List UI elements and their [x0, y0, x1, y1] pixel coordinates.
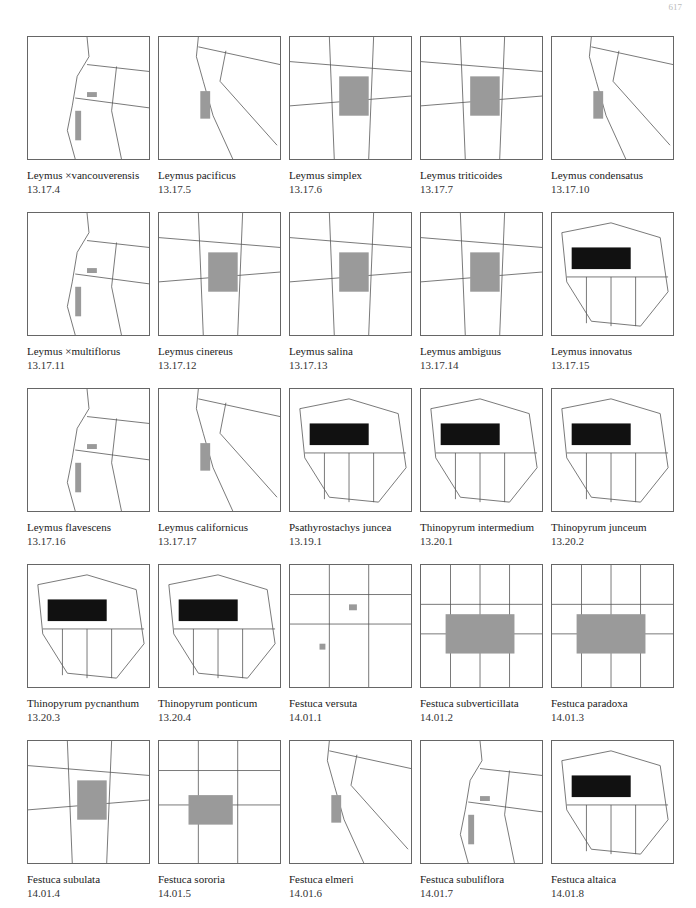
map-cell: Festuca subuliflora 14.01.7 — [420, 740, 544, 908]
species-name: Leymus salina — [289, 344, 413, 358]
map-caption: Leymus triticoides 13.17.7 — [420, 168, 544, 196]
species-name: Leymus innovatus — [551, 344, 675, 358]
species-code: 13.20.4 — [158, 710, 282, 724]
distribution-map — [289, 740, 412, 864]
map-graphic — [421, 741, 542, 863]
map-caption: Festuca subulata 14.01.4 — [27, 872, 151, 900]
distribution-map — [551, 564, 674, 688]
map-graphic — [421, 389, 542, 511]
map-graphic — [290, 37, 411, 159]
map-graphic — [421, 565, 542, 687]
map-graphic — [421, 37, 542, 159]
species-code: 14.01.7 — [420, 886, 544, 900]
species-name: Thinopyrum ponticum — [158, 696, 282, 710]
page-number: 617 — [669, 2, 683, 12]
map-graphic — [159, 37, 280, 159]
distribution-map — [551, 212, 674, 336]
species-name: Thinopyrum pycnanthum — [27, 696, 151, 710]
species-code: 13.17.4 — [27, 182, 151, 196]
species-name: Leymus ambiguus — [420, 344, 544, 358]
map-cell: Thinopyrum ponticum 13.20.4 — [158, 564, 282, 740]
species-code: 13.17.16 — [27, 534, 151, 548]
map-caption: Leymus simplex 13.17.6 — [289, 168, 413, 196]
species-name: Thinopyrum intermedium — [420, 520, 544, 534]
map-caption: Psathyrostachys juncea 13.19.1 — [289, 520, 413, 548]
species-code: 14.01.1 — [289, 710, 413, 724]
distribution-map — [420, 212, 543, 336]
species-name: Leymus californicus — [158, 520, 282, 534]
map-graphic — [28, 741, 149, 863]
species-name: Leymus triticoides — [420, 168, 544, 182]
map-graphic — [552, 213, 673, 335]
map-cell: Leymus ×multiflorus 13.17.11 — [27, 212, 151, 388]
map-caption: Leymus salina 13.17.13 — [289, 344, 413, 372]
map-caption: Leymus innovatus 13.17.15 — [551, 344, 675, 372]
species-name: Leymus condensatus — [551, 168, 675, 182]
distribution-map — [420, 36, 543, 160]
distribution-map — [27, 212, 150, 336]
map-cell: Leymus condensatus 13.17.10 — [551, 36, 675, 212]
map-graphic — [552, 565, 673, 687]
species-name: Leymus cinereus — [158, 344, 282, 358]
map-caption: Thinopyrum pycnanthum 13.20.3 — [27, 696, 151, 724]
map-caption: Leymus pacificus 13.17.5 — [158, 168, 282, 196]
distribution-map — [551, 36, 674, 160]
distribution-map — [27, 388, 150, 512]
species-code: 13.20.3 — [27, 710, 151, 724]
map-cell: Leymus innovatus 13.17.15 — [551, 212, 675, 388]
species-code: 13.17.12 — [158, 358, 282, 372]
species-code: 13.17.10 — [551, 182, 675, 196]
map-graphic — [159, 213, 280, 335]
map-cell: Thinopyrum pycnanthum 13.20.3 — [27, 564, 151, 740]
distribution-map — [289, 212, 412, 336]
map-cell: Festuca paradoxa 14.01.3 — [551, 564, 675, 740]
species-name: Leymus simplex — [289, 168, 413, 182]
map-graphic — [28, 37, 149, 159]
species-name: Festuca versuta — [289, 696, 413, 710]
distribution-map — [551, 740, 674, 864]
map-cell: Thinopyrum junceum 13.20.2 — [551, 388, 675, 564]
map-caption: Festuca elmeri 14.01.6 — [289, 872, 413, 900]
species-code: 14.01.4 — [27, 886, 151, 900]
species-name: Festuca altaica — [551, 872, 675, 886]
species-code: 13.17.5 — [158, 182, 282, 196]
distribution-map — [420, 740, 543, 864]
species-name: Leymus pacificus — [158, 168, 282, 182]
map-cell: Leymus salina 13.17.13 — [289, 212, 413, 388]
map-cell: Leymus ambiguus 13.17.14 — [420, 212, 544, 388]
map-caption: Festuca versuta 14.01.1 — [289, 696, 413, 724]
map-graphic — [552, 37, 673, 159]
distribution-map-grid: Leymus ×vancouverensis 13.17.4 Leymus pa… — [27, 36, 675, 908]
species-code: 13.17.13 — [289, 358, 413, 372]
species-code: 14.01.8 — [551, 886, 675, 900]
map-caption: Leymus ×vancouverensis 13.17.4 — [27, 168, 151, 196]
map-cell: Festuca subverticillata 14.01.2 — [420, 564, 544, 740]
distribution-map — [158, 388, 281, 512]
map-caption: Leymus cinereus 13.17.12 — [158, 344, 282, 372]
species-code: 13.17.15 — [551, 358, 675, 372]
species-code: 13.17.11 — [27, 358, 151, 372]
map-graphic — [552, 741, 673, 863]
map-caption: Thinopyrum junceum 13.20.2 — [551, 520, 675, 548]
map-caption: Festuca sororia 14.01.5 — [158, 872, 282, 900]
species-code: 14.01.3 — [551, 710, 675, 724]
species-code: 13.17.7 — [420, 182, 544, 196]
map-caption: Leymus ambiguus 13.17.14 — [420, 344, 544, 372]
species-code: 13.17.17 — [158, 534, 282, 548]
species-code: 14.01.2 — [420, 710, 544, 724]
species-name: Thinopyrum junceum — [551, 520, 675, 534]
map-graphic — [290, 213, 411, 335]
map-caption: Leymus flavescens 13.17.16 — [27, 520, 151, 548]
map-cell: Leymus ×vancouverensis 13.17.4 — [27, 36, 151, 212]
map-graphic — [290, 389, 411, 511]
map-graphic — [290, 741, 411, 863]
species-name: Festuca subulata — [27, 872, 151, 886]
map-graphic — [421, 213, 542, 335]
map-graphic — [552, 389, 673, 511]
species-code: 13.17.6 — [289, 182, 413, 196]
species-code: 14.01.5 — [158, 886, 282, 900]
map-caption: Festuca paradoxa 14.01.3 — [551, 696, 675, 724]
map-graphic — [159, 389, 280, 511]
map-caption: Thinopyrum ponticum 13.20.4 — [158, 696, 282, 724]
species-name: Festuca subverticillata — [420, 696, 544, 710]
